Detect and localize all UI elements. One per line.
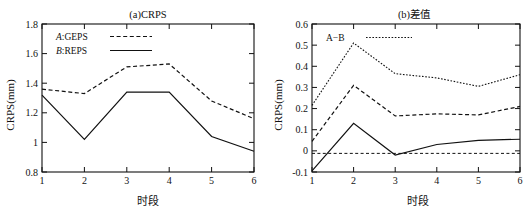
x-tick-label: 2 [82,175,87,186]
legend-item-reps: B:REPS [56,46,87,56]
series-line-B:REPS [42,92,254,151]
x-tick-label: 3 [393,175,398,186]
panel-b-title: (b)差值 [398,8,431,21]
legend-item-geps: A:GEPS [55,32,88,42]
legend-rest-part: :GEPS [62,32,88,42]
x-tick-label: 4 [434,175,439,186]
x-tick-label: 3 [124,175,129,186]
chart-panel-a: (a)CRPS CRPS(mm) 时段 0.811.21.41.61.81234… [0,0,266,213]
y-tick-label: 0.2 [296,103,309,114]
y-tick-label: 1.4 [26,78,39,89]
y-tick-label: 1.6 [26,48,39,59]
panel-a-title: (a)CRPS [129,9,167,21]
x-tick-label: 5 [209,175,214,186]
panel-b-x-axis-title: 时段 [407,194,429,207]
panel-a-x-axis-title: 时段 [137,194,159,207]
y-tick-label: 0.1 [296,124,309,135]
series-line-upper-bound [312,43,520,105]
legend-item-a-minus-b: A−B [326,33,345,43]
chart-panel-b: (b)差值 CRPS(mm) 时段 -0.100.10.20.30.40.50.… [266,0,532,213]
legend-rest-part: :REPS [62,46,87,56]
y-tick-label: 0.5 [296,40,309,51]
y-tick-label: 0.3 [296,82,309,93]
y-tick-label: 1.8 [26,19,39,30]
y-tick-label: 0.8 [26,167,39,178]
series-line-A-B [312,85,520,141]
x-tick-label: 5 [476,175,481,186]
panel-a-y-axis-title: CRPS(mm) [4,79,17,131]
series-line-lower-bound [312,123,520,171]
y-tick-label: 1 [33,137,38,148]
panel-b-y-axis-title: CRPS(mm) [272,79,285,131]
series-line-A:GEPS [42,64,254,119]
figure-container: (a)CRPS CRPS(mm) 时段 0.811.21.41.61.81234… [0,0,532,213]
x-tick-label: 1 [40,175,45,186]
y-tick-label: 0.4 [296,61,309,72]
y-tick-label: 0 [303,145,308,156]
x-tick-label: 2 [351,175,356,186]
y-tick-label: -0.1 [292,167,308,178]
x-tick-label: 4 [167,175,172,186]
x-tick-label: 6 [518,175,523,186]
chart-a-svg: (a)CRPS CRPS(mm) 时段 0.811.21.41.61.81234… [0,0,266,213]
y-tick-label: 0.6 [296,19,309,30]
chart-b-svg: (b)差值 CRPS(mm) 时段 -0.100.10.20.30.40.50.… [266,0,532,213]
panel-a-plot-area: 0.811.21.41.61.8123456A:GEPSB:REPS [26,19,257,187]
x-tick-label: 1 [310,175,315,186]
y-tick-label: 1.2 [26,107,39,118]
x-tick-label: 6 [252,175,257,186]
panel-b-plot-area: -0.100.10.20.30.40.50.6123456A−B [292,19,522,187]
